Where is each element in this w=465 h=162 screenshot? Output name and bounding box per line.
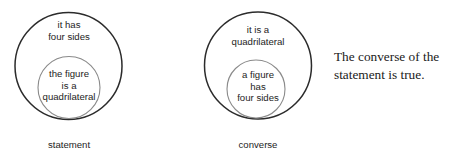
converse-circles <box>190 0 340 135</box>
diagram-canvas: it has four sides the figure is a quadri… <box>0 0 465 162</box>
converse-caption: converse <box>203 139 313 151</box>
statement-inner-label: the figure is a quadrilateral <box>26 68 112 103</box>
conclusion-text: The converse of the statement is true. <box>334 48 464 84</box>
converse-outer-label: it is a quadrilateral <box>205 24 311 47</box>
statement-caption: statement <box>10 139 128 151</box>
statement-outer-label: it has four sides <box>18 19 120 42</box>
converse-inner-label: a figure has four sides <box>214 69 302 104</box>
